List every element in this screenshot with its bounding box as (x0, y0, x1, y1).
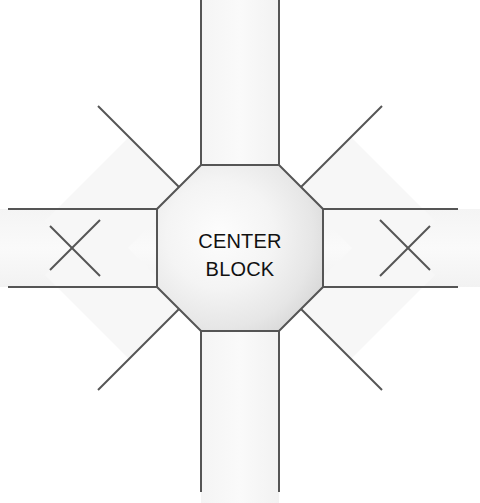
center-block-label-line1: CENTER (198, 230, 281, 252)
arm-south-fill (201, 331, 279, 503)
diagram-canvas: CENTER BLOCK (0, 0, 480, 503)
center-block-diagram: CENTER BLOCK (0, 0, 480, 503)
center-block-label-line2: BLOCK (206, 258, 275, 280)
arm-north-fill (201, 0, 279, 165)
